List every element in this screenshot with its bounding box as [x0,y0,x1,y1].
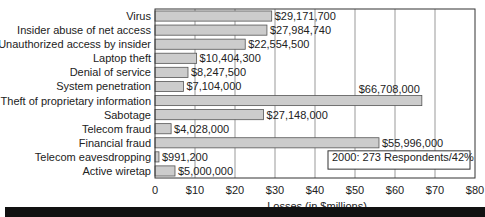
x-tick-label: $80 [466,184,484,196]
x-tick-labels: 0$10$20$30$40$50$60$70$80 [152,184,484,196]
category-label: Insider abuse of net access [17,24,151,36]
category-label: Financial fraud [79,137,151,149]
bar [155,11,272,21]
bar [155,138,379,148]
category-label: Denial of service [70,66,151,78]
value-label: $27,984,740 [270,24,331,36]
value-label: $66,708,000 [359,83,420,95]
x-tick-label: $10 [186,184,204,196]
x-tick-label: $30 [266,184,284,196]
bar [155,53,197,63]
value-label: $8,247,500 [191,66,246,78]
category-label: Sabotage [104,109,151,121]
bottom-divider-bar [5,207,485,217]
category-label: Laptop theft [93,52,151,64]
category-label: Telecom eavesdropping [35,151,151,163]
category-label: Theft of proprietary information [1,95,151,107]
value-label: $7,104,000 [186,80,241,92]
value-label: $10,404,300 [200,52,261,64]
category-label: System penetration [56,80,151,92]
x-tick-label: 0 [152,184,158,196]
x-tick-label: $50 [346,184,364,196]
bar [155,166,175,176]
category-label: Telecom fraud [82,123,151,135]
x-tick-label: $40 [306,184,324,196]
bar [155,95,422,105]
bar [155,124,171,134]
category-label: Active wiretap [83,165,151,177]
bar [155,152,159,162]
value-label: $4,028,000 [174,123,229,135]
value-label: $22,554,500 [248,38,309,50]
category-label: Unauthorized access by insider [0,38,151,50]
value-label: $991,200 [162,151,208,163]
category-label: Virus [126,10,151,22]
value-label: $5,000,000 [178,165,233,177]
annotation-box: 2000: 273 Respondents/42% [328,151,474,169]
annotation-text: 2000: 273 Respondents/42% [332,151,474,163]
value-label: $27,148,000 [267,109,328,121]
value-label: $55,996,000 [382,137,443,149]
bar [155,39,245,49]
bar [155,25,267,35]
value-label: $29,171,700 [275,10,336,22]
x-tick-label: $70 [426,184,444,196]
bar [155,67,188,77]
x-tick-label: $20 [226,184,244,196]
x-tick-label: $60 [386,184,404,196]
bar-chart: VirusInsider abuse of net accessUnauthor… [0,0,485,217]
bar [155,110,264,120]
category-labels: VirusInsider abuse of net accessUnauthor… [0,10,151,177]
bar [155,81,183,91]
